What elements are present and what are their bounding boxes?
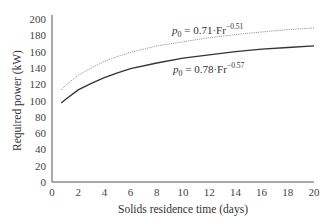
x-tick-label: 16 (256, 186, 268, 198)
y-tick-label: 120 (30, 78, 47, 90)
y-tick-label: 40 (35, 143, 47, 155)
y-tick-label: 200 (30, 13, 47, 25)
chart: 0204060801001201401601802000246810121416… (0, 0, 336, 218)
x-tick-label: 4 (102, 186, 108, 198)
y-tick-label: 160 (30, 46, 47, 58)
x-tick-label: 6 (128, 186, 134, 198)
x-tick-label: 18 (282, 186, 294, 198)
x-tick-label: 20 (309, 186, 321, 198)
y-tick-label: 180 (30, 29, 47, 41)
y-tick-label: 100 (30, 95, 47, 107)
y-tick-label: 60 (35, 127, 47, 139)
y-tick-label: 80 (35, 111, 47, 123)
y-axis-label: Required power (kW) (11, 50, 24, 151)
x-tick-label: 8 (154, 186, 160, 198)
annotation-upper-equation: p0 = 0.71·Fr−0.51 (171, 22, 244, 39)
y-tick-label: 140 (30, 62, 47, 74)
annotation-lower-equation: p0 = 0.78·Fr−0.57 (172, 61, 245, 78)
x-tick-label: 14 (230, 186, 242, 198)
x-tick-label: 0 (49, 186, 55, 198)
y-tick-label: 20 (35, 160, 47, 172)
x-tick-label: 10 (178, 186, 190, 198)
x-tick-label: 2 (75, 186, 81, 198)
x-axis-label: Solids residence time (days) (118, 203, 248, 216)
y-tick-label: 0 (41, 176, 47, 188)
x-tick-label: 12 (204, 186, 215, 198)
